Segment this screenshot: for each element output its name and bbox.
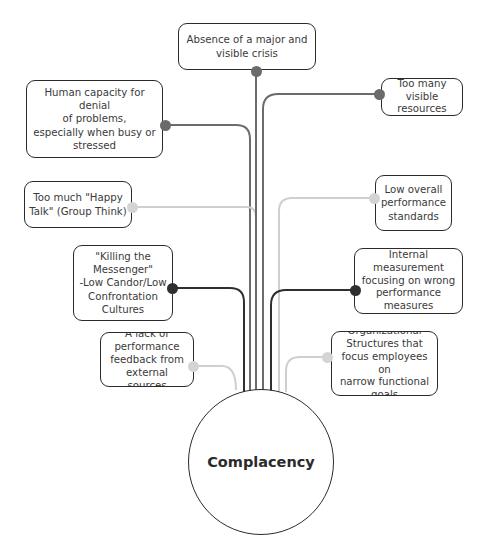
node-lack-of-feedback: A lack of performance feedback from exte… [100,332,194,387]
center-node-complacency: Complacency [188,389,334,535]
wire-org-structures [286,357,327,392]
node-denial-of-problems: Human capacity for denial of problems, e… [26,80,163,158]
node-killing-messenger: "Killing the Messenger" -Low Candor/Low … [73,245,173,321]
connector-dot-internal-measurement [350,285,361,296]
node-org-structures: Organizational Structures that focus emp… [331,331,438,396]
connector-dot-lack-of-feedback [188,361,199,372]
wire-lack-of-feedback [193,366,236,390]
connector-dot-killing-messenger [167,283,178,294]
connector-dot-org-structures [322,352,333,363]
connector-dot-absence-of-crisis [251,66,262,77]
connector-dot-denial-of-problems [160,120,171,131]
node-absence-of-crisis: Absence of a major and visible crisis [178,23,316,70]
center-node-label: Complacency [207,454,315,470]
node-low-standards: Low overall performance standards [375,175,452,231]
node-internal-measurement: Internal measurement focusing on wrong p… [354,248,463,314]
node-happy-talk: Too much "Happy Talk" (Group Think) [24,181,132,228]
node-too-many-resources: Too many visible resources [381,78,463,116]
connector-dot-low-standards [369,193,380,204]
connector-dot-happy-talk [127,202,138,213]
connector-dot-too-many-resources [374,89,385,100]
